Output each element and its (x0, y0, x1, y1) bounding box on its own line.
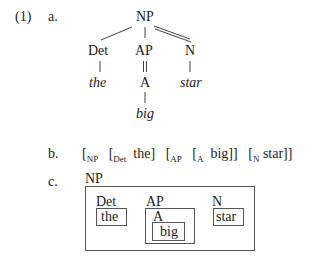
bracket-np: [NP (82, 146, 98, 161)
tree-leaf-big: big (136, 107, 154, 121)
box-n-content: star (216, 210, 236, 224)
box-ap-label: AP (146, 195, 164, 209)
tree-node-n: N (185, 44, 195, 58)
tree-node-det: Det (88, 44, 108, 58)
tree-leaf-the: the (89, 76, 106, 90)
tree-leaf-star: star (180, 76, 202, 90)
tree-node-ap: AP (135, 44, 153, 58)
box-n-label: N (212, 195, 222, 209)
box-det-label: Det (96, 195, 116, 209)
tree-node-a: A (140, 76, 150, 90)
labeled-bracketing: [NP [Det the] [AP [A big]] [N star]] (82, 147, 292, 161)
item-c-label: c. (48, 175, 58, 189)
bracket-a: [A big]] (192, 146, 237, 161)
box-det-content: the (101, 210, 118, 224)
bracket-ap: [AP (166, 146, 182, 161)
box-a-content: big (160, 225, 178, 239)
box-np-label: NP (85, 172, 103, 186)
bracket-det: [Det the] (109, 146, 155, 161)
tree-node-np: NP (136, 10, 154, 24)
item-b-label: b. (48, 147, 59, 161)
bracket-n: [N star]] (248, 146, 292, 161)
